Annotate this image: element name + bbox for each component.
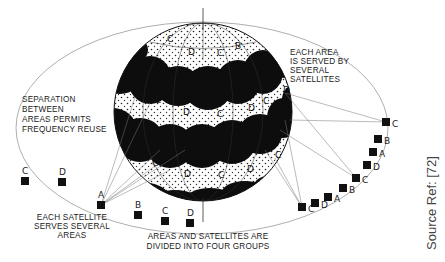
satellite-label: B (349, 185, 355, 195)
satellite-c: C (21, 166, 29, 185)
annotation-each-area: EACH AREA IS SERVED BY SEVERAL SATELLITE… (290, 48, 349, 84)
satellite-a: A (369, 148, 386, 159)
satellite-label: C (22, 166, 28, 176)
svg-text:DIVIDED INTO FOUR GROUPS: DIVIDED INTO FOUR GROUPS (147, 242, 270, 251)
satellite-marker-icon (97, 201, 105, 209)
svg-text:EACH AREA: EACH AREA (290, 48, 339, 57)
satellite-marker-icon (363, 161, 371, 169)
svg-text:AREAS AND SATELLITES ARE: AREAS AND SATELLITES ARE (148, 232, 269, 241)
globe (88, 8, 302, 222)
satellite-label: B (384, 136, 390, 146)
satellite-label: A (334, 194, 341, 204)
area-label: C (167, 34, 173, 44)
satellite-label: A (379, 149, 386, 159)
area-label: D (183, 107, 190, 117)
svg-text:FREQUENCY REUSE: FREQUENCY REUSE (22, 125, 107, 134)
satellite-marker-icon (382, 118, 390, 126)
area-label: C (275, 150, 281, 160)
area-label: C (152, 158, 158, 168)
area-label: C (217, 48, 223, 58)
area-label: D (248, 103, 255, 113)
svg-text:SEPARATION: SEPARATION (22, 95, 76, 104)
satellite-b: B (134, 200, 142, 219)
svg-text:SERVES SEVERAL: SERVES SEVERAL (34, 222, 110, 231)
satellite-marker-icon (352, 174, 360, 182)
svg-text:SEVERAL: SEVERAL (290, 66, 329, 75)
svg-text:EACH SATELLITE: EACH SATELLITE (37, 213, 108, 222)
area-label: C (217, 109, 223, 119)
satellite-label: D (321, 200, 328, 210)
satellite-label: C (162, 206, 168, 216)
satellite-marker-icon (311, 199, 319, 207)
satellite-label: D (373, 162, 380, 172)
satellite-marker-icon (58, 178, 66, 186)
satellite-label: C (362, 175, 368, 185)
area-label: C (218, 170, 224, 180)
area-label: D (184, 169, 191, 179)
satellite-marker-icon (186, 219, 194, 227)
svg-text:AREAS: AREAS (58, 231, 87, 240)
svg-text:IS SERVED BY: IS SERVED BY (290, 57, 349, 66)
satellite-c: C (161, 206, 169, 225)
satellite-a: A (97, 190, 105, 209)
satellite-marker-icon (298, 203, 306, 211)
satellite-c: C (382, 118, 398, 129)
satellite-label: B (135, 200, 141, 210)
satellite-d: D (58, 167, 66, 186)
area-label: B (235, 41, 241, 51)
satellite-marker-icon (339, 184, 347, 192)
area-label: C (155, 95, 161, 105)
satellite-label: D (59, 167, 66, 177)
annotation-separation: SEPARATION BETWEEN AREAS PERMITS FREQUEN… (22, 95, 107, 134)
satellite-b: B (339, 184, 355, 195)
satellite-d: D (363, 161, 380, 172)
source-reference: Source Ref: [72] (424, 156, 439, 250)
satellite-label: C (392, 119, 398, 129)
satellite-label: D (187, 208, 194, 218)
diagram-canvas: CDCBDCDCDCDCDCDC CDABCDCDABCDABC SEPARAT… (0, 0, 445, 262)
area-label: C (263, 96, 269, 106)
satellite-marker-icon (161, 217, 169, 225)
svg-text:AREAS PERMITS: AREAS PERMITS (22, 115, 91, 124)
area-label: D (135, 89, 142, 99)
annotation-four-groups: AREAS AND SATELLITES ARE DIVIDED INTO FO… (147, 232, 270, 251)
svg-text:BETWEEN: BETWEEN (22, 105, 64, 114)
satellite-marker-icon (21, 177, 29, 185)
satellite-label: A (98, 190, 105, 200)
annotation-each-satellite: EACH SATELLITE SERVES SEVERAL AREAS (34, 213, 110, 240)
svg-text:SATELLITES: SATELLITES (290, 75, 340, 84)
satellite-marker-icon (369, 148, 377, 156)
area-label: D (283, 85, 290, 95)
satellite-d: D (186, 208, 194, 227)
satellite-marker-icon (324, 193, 332, 201)
satellite-marker-icon (374, 135, 382, 143)
area-label: D (247, 164, 254, 174)
area-label: D (188, 47, 195, 57)
satellite-b: B (374, 135, 390, 146)
satellite-marker-icon (134, 211, 142, 219)
